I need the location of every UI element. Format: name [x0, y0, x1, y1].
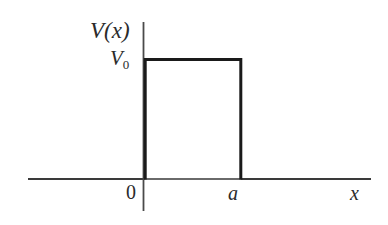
- potential-barrier-figure: V(x) V0 0 a x: [0, 0, 388, 225]
- potential-barrier-curve: [145, 60, 241, 180]
- x-axis-label: x: [350, 183, 359, 203]
- barrier-height-symbol: V: [110, 46, 123, 70]
- y-axis-label: V(x): [90, 19, 130, 42]
- plot-canvas: [0, 0, 388, 225]
- barrier-width-tick-label: a: [228, 183, 238, 203]
- barrier-height-label: V0: [110, 48, 129, 71]
- barrier-height-subscript: 0: [123, 57, 130, 72]
- origin-tick-label: 0: [126, 182, 136, 202]
